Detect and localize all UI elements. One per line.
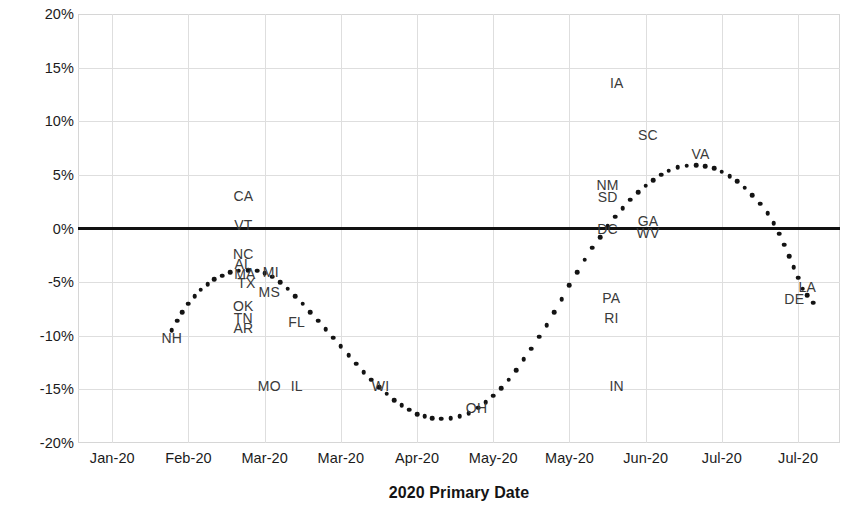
x-axis-tick: May-20 [469,450,518,466]
data-point [499,386,504,391]
data-point [552,310,557,315]
y-axis-tick: 0% [16,221,74,237]
y-axis-tick-labels: 20%15%10%5%0%-5%-10%-15%-20% [12,0,74,460]
gridline-horizontal [78,336,840,337]
state-label: MI [263,264,279,280]
data-point [636,190,641,195]
data-point [735,179,740,184]
state-label: MO [258,378,281,394]
data-point [415,412,420,417]
data-point [212,277,217,282]
state-label: IN [610,378,624,394]
y-axis-tick: -10% [16,328,74,344]
state-label: AR [233,320,253,336]
data-point [422,414,427,419]
data-point [694,163,699,168]
zero-reference-line [78,227,840,230]
data-point [659,173,664,178]
data-point [392,398,397,403]
data-point [198,287,203,292]
x-axis-tick: Apr-20 [395,450,439,466]
data-point [491,394,496,399]
gridline-horizontal [78,175,840,176]
data-point [811,300,816,305]
x-axis-tick: Jul-20 [702,450,742,466]
data-point [590,246,595,251]
data-point [400,403,405,408]
state-label: FL [288,314,305,330]
state-label: SD [598,189,618,205]
data-point [192,294,197,299]
y-axis-tick: 20% [16,6,74,22]
y-axis-tick: 5% [16,167,74,183]
x-axis-tick: Jun-20 [623,450,668,466]
gridline-horizontal [78,68,840,69]
data-point [651,178,656,183]
y-axis-tick: -5% [16,274,74,290]
state-label: CA [233,188,253,204]
x-axis-tick: May-20 [545,450,594,466]
data-point [560,297,565,302]
data-point [331,336,336,341]
state-label: MS [259,284,280,300]
state-label: VT [234,217,252,233]
data-point [339,344,344,349]
y-axis-tick: 10% [16,113,74,129]
gridline-horizontal [78,389,840,390]
data-point [514,368,519,373]
data-point [521,357,526,362]
data-point [448,416,453,421]
data-point [643,183,648,188]
data-point [742,185,747,190]
state-label: PA [602,290,620,306]
data-point [293,294,298,299]
data-point [439,417,444,422]
data-point [285,286,290,291]
data-point [712,166,717,171]
data-point [308,310,313,315]
data-point [220,273,225,278]
x-axis-title: 2020 Primary Date [78,484,840,502]
data-point [180,310,185,315]
data-point [529,346,534,351]
state-label: WI [372,378,390,394]
data-point [186,301,191,306]
data-point [537,335,542,340]
y-axis-tick: 15% [16,60,74,76]
x-axis-tick: Jul-20 [778,450,818,466]
data-point [346,353,351,358]
data-point [758,202,763,207]
data-point [791,265,796,270]
state-label: VA [692,146,710,162]
x-axis-tick: Jan-20 [90,450,135,466]
state-label: RI [604,310,618,326]
data-point [300,301,305,306]
data-point [316,318,321,323]
data-point [621,206,626,211]
data-point [354,361,359,366]
state-label: NH [161,330,182,346]
state-label: IA [610,75,624,91]
state-label: WV [636,225,659,241]
data-point [175,318,180,323]
data-point [666,168,671,173]
x-axis-tick: Mar-20 [318,450,365,466]
data-point [361,370,366,375]
data-point [613,214,618,219]
data-point [506,377,511,382]
data-point [685,163,690,168]
state-label: SC [638,127,658,143]
data-point [430,416,435,421]
data-point [703,164,708,169]
data-point [782,242,787,247]
data-point [628,197,633,202]
data-point [750,193,755,198]
data-point [407,407,412,412]
data-point [720,169,725,174]
plot-area: NHCAVTNCALMAMITXMSOKTNARFLMOILWIOHIASCVA… [78,14,840,443]
data-point [575,270,580,275]
data-point [765,211,770,216]
state-label: OH [466,400,487,416]
data-point [205,282,210,287]
x-axis-tick: Mar-20 [241,450,288,466]
